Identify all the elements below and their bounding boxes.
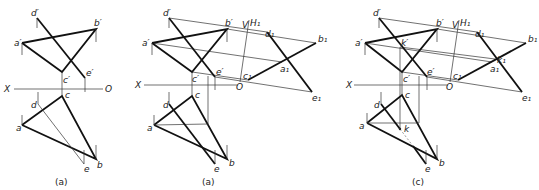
- label-a-prime: a′: [14, 38, 22, 48]
- label-e1: e₁: [312, 93, 322, 103]
- label-c: c: [195, 90, 200, 100]
- label-c-prime: c′: [192, 74, 199, 84]
- line-dk-top: [381, 104, 400, 129]
- label-o: O: [236, 82, 243, 92]
- label-k-prime: k′: [401, 38, 408, 48]
- label-v: V: [242, 20, 249, 30]
- label-c1: c₁: [243, 71, 252, 81]
- caption: (a): [55, 177, 68, 187]
- label-d1: d₁: [475, 29, 485, 39]
- label-a: a: [359, 121, 365, 131]
- label-e: e: [84, 164, 90, 174]
- label-k1: k₁: [497, 55, 506, 65]
- label-a: a: [147, 123, 153, 133]
- label-a: a: [16, 123, 22, 133]
- panel-1: d′ b′ a′ c′ e′ X O c d a e b (a): [3, 8, 112, 187]
- triangle-abc-front: [152, 29, 227, 72]
- projection-diagram: d′ b′ a′ c′ e′ X O c d a e b (a): [0, 0, 539, 190]
- label-c-prime: c′: [403, 74, 410, 84]
- triangle-abc-front: [22, 29, 96, 72]
- label-k: k: [404, 124, 410, 134]
- label-h1: H₁: [250, 18, 261, 28]
- label-e-prime: e′: [427, 67, 435, 77]
- panel-3: d′ b′ a′ k′ c′ e′ X O c d a k e b V H₁ d…: [345, 8, 538, 187]
- label-e1: e₁: [522, 93, 532, 103]
- label-h1: H₁: [460, 18, 471, 28]
- label-c-prime: c′: [63, 75, 70, 85]
- line-de-front: [169, 18, 215, 77]
- label-b: b: [97, 160, 103, 170]
- label-b1: b₁: [318, 34, 328, 44]
- label-c: c: [405, 90, 410, 100]
- label-d1: d₁: [265, 29, 275, 39]
- label-e-prime: e′: [86, 68, 94, 78]
- label-c1: c₁: [453, 71, 462, 81]
- label-x: X: [345, 80, 353, 90]
- label-d-prime: d′: [163, 8, 171, 18]
- label-e: e: [425, 164, 431, 174]
- line-cb-aux: [458, 43, 526, 80]
- label-b-prime: b′: [436, 18, 444, 28]
- label-o: O: [105, 84, 112, 94]
- label-d-prime: d′: [31, 8, 39, 18]
- label-v: V: [452, 20, 459, 30]
- label-b1: b₁: [528, 34, 538, 44]
- label-a-prime: a′: [142, 38, 150, 48]
- label-d: d: [31, 100, 37, 110]
- label-a1: a₁: [490, 64, 500, 74]
- label-b: b: [439, 158, 445, 168]
- label-a1: a₁: [280, 64, 290, 74]
- label-d-prime: d′: [373, 8, 381, 18]
- label-b: b: [229, 158, 235, 168]
- line-ke-top: [413, 146, 426, 164]
- point-k: [399, 128, 401, 130]
- label-x: X: [134, 80, 142, 90]
- panel-2: d′ b′ a′ c′ e′ X O c d a e b V H₁ d₁ b₁ …: [134, 8, 328, 187]
- caption: (c): [412, 177, 424, 187]
- label-b-prime: b′: [94, 18, 102, 28]
- label-c: c: [65, 90, 70, 100]
- caption: (a): [202, 177, 215, 187]
- line-cb-aux: [248, 43, 316, 80]
- label-d: d: [163, 100, 169, 110]
- label-d: d: [374, 100, 380, 110]
- line-de-top: [38, 104, 84, 164]
- label-b-prime: b′: [225, 18, 233, 28]
- label-a-prime: a′: [355, 38, 363, 48]
- label-o: O: [446, 82, 453, 92]
- line-de-front: [37, 18, 85, 78]
- label-e: e: [214, 164, 220, 174]
- label-x: X: [3, 84, 11, 94]
- label-e-prime: e′: [216, 67, 224, 77]
